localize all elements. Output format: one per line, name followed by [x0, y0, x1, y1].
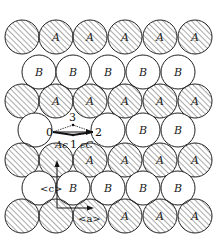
- atom-label: A: [155, 31, 164, 44]
- atom-label: A: [155, 154, 164, 167]
- close-packed-layer-diagram: AAAAABBBBBAAAAABBAAAABBBBAAA 0 3 2 1 Aϵ …: [0, 0, 220, 234]
- atom-a-hatched: [5, 199, 39, 233]
- atom-label: A: [190, 154, 199, 167]
- atom-label: A: [85, 95, 94, 108]
- atom-label: B: [34, 66, 43, 79]
- c-axis-label: <c>: [40, 183, 62, 194]
- site-0-label: 0: [46, 126, 53, 139]
- site-1-label: 1: [70, 138, 77, 151]
- slip-vectors: [53, 124, 93, 137]
- epsilon-c-label: ϵC: [80, 139, 94, 150]
- atom-label: A: [85, 31, 94, 44]
- atom-label: B: [68, 182, 77, 195]
- atom-label: B: [138, 124, 147, 137]
- atom-label: A: [120, 210, 129, 223]
- atom-label: A: [51, 31, 60, 44]
- atom-label: A: [190, 31, 199, 44]
- atom-label: B: [68, 66, 77, 79]
- atom-label: B: [103, 66, 112, 79]
- atom-a-hatched: [39, 199, 73, 233]
- atom-label: A: [155, 210, 164, 223]
- a-epsilon-label: Aϵ: [54, 139, 68, 150]
- atom-label: A: [190, 95, 199, 108]
- atom-label: A: [190, 210, 199, 223]
- atom-label: A: [85, 154, 94, 167]
- site-2-label: 2: [95, 126, 102, 139]
- atom-label: A: [120, 95, 129, 108]
- atom-label: B: [138, 182, 147, 195]
- atom-label: B: [173, 182, 182, 195]
- atom-label: A: [155, 95, 164, 108]
- atom-label: A: [51, 95, 60, 108]
- atom-label: B: [173, 124, 182, 137]
- atom-label: A: [120, 31, 129, 44]
- site-3-label: 3: [69, 111, 76, 124]
- a-axis-label: <a>: [78, 213, 101, 224]
- atom-a-hatched: [5, 20, 39, 54]
- atom-label: B: [173, 66, 182, 79]
- atom-label: B: [138, 66, 147, 79]
- atom-label: B: [103, 182, 112, 195]
- atom-label: A: [120, 154, 129, 167]
